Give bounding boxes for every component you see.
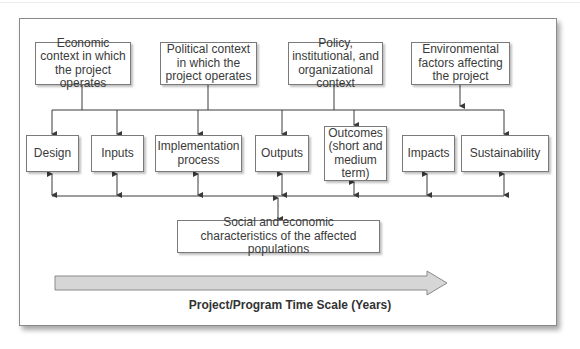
context-economic: Economic context in which the project op… — [35, 42, 131, 85]
stage-impacts: Impacts — [402, 135, 455, 172]
context-political: Political context in which the project o… — [160, 42, 257, 85]
context-environmental: Environmental factors affecting the proj… — [411, 42, 510, 85]
timescale-arrow — [55, 271, 447, 295]
stage-implementation: Implementation process — [155, 135, 242, 172]
stage-outcomes: Outcomes (short and medium term) — [324, 126, 387, 181]
context-policy: Policy, institutional, and organizationa… — [288, 42, 383, 85]
stage-outputs: Outputs — [255, 135, 309, 172]
timescale-label: Project/Program Time Scale (Years) — [0, 298, 580, 312]
stage-design: Design — [26, 135, 79, 172]
stage-inputs: Inputs — [91, 135, 144, 172]
population-characteristics: Social and economic characteristics of t… — [177, 220, 380, 253]
stage-sustainability: Sustainability — [461, 135, 549, 172]
